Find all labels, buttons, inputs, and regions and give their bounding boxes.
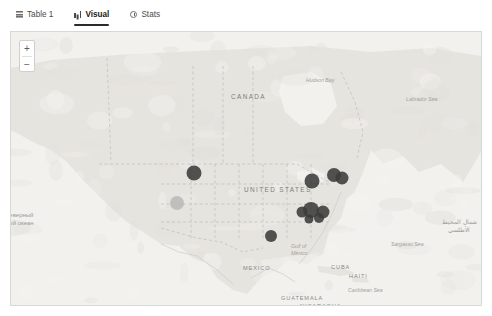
map-zoom-control: + − — [19, 40, 35, 72]
map-basemap — [11, 32, 481, 305]
zoom-out-button[interactable]: − — [20, 57, 34, 72]
tab-visual[interactable]: Visual — [74, 0, 117, 29]
marker-texas[interactable] — [265, 230, 277, 242]
tab-table-1-label: Table 1 — [27, 10, 53, 19]
bar-chart-icon — [74, 11, 81, 18]
marker-montana[interactable] — [187, 166, 202, 181]
tab-stats[interactable]: Stats — [130, 0, 168, 29]
marker-great-lakes[interactable] — [305, 174, 320, 189]
tab-table-1[interactable]: Table 1 — [16, 0, 61, 29]
active-tab-underline — [74, 24, 109, 26]
map-canvas[interactable]: + − CANADAUNITED STATESMEXICOCUBAHAITIGU… — [11, 32, 481, 305]
table-icon — [16, 11, 23, 18]
marker-northeast[interactable] — [336, 172, 349, 185]
marker-tennessee[interactable] — [305, 215, 314, 224]
clock-icon — [130, 11, 137, 18]
marker-california[interactable] — [170, 196, 184, 210]
tab-bar: Table 1 Visual Stats — [0, 0, 492, 29]
tab-visual-label: Visual — [85, 10, 109, 19]
marker-georgia[interactable] — [314, 213, 324, 223]
tab-stats-label: Stats — [141, 10, 160, 19]
zoom-in-button[interactable]: + — [20, 41, 34, 56]
visual-map-panel: Table 1 Visual Stats + − CANADAUNITED ST… — [0, 0, 492, 316]
map-frame: + − CANADAUNITED STATESMEXICOCUBAHAITIGU… — [10, 31, 482, 306]
